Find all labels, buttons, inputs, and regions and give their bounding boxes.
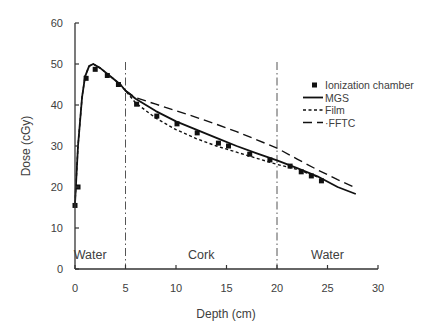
region-label: Water bbox=[74, 248, 107, 262]
fftc-line bbox=[126, 91, 356, 188]
ionization-chamber-point bbox=[93, 67, 98, 72]
y-axis-title: Dose (cGy) bbox=[19, 116, 33, 177]
legend-label: Ionization chamber bbox=[325, 79, 414, 91]
dose-depth-chart: 0102030405060051015202530 Depth (cm) Dos… bbox=[0, 0, 431, 333]
legend-label: ·FFTC bbox=[325, 117, 356, 129]
plot-area bbox=[73, 62, 356, 269]
x-tick-label: 15 bbox=[220, 282, 232, 294]
region-label: Cork bbox=[188, 248, 215, 262]
x-axis-title: Depth (cm) bbox=[196, 307, 255, 321]
y-tick-label: 50 bbox=[51, 58, 63, 70]
x-tick-label: 10 bbox=[170, 282, 182, 294]
legend: Ionization chamberMGSFilm·FFTC bbox=[303, 79, 414, 129]
region-label: Water bbox=[311, 248, 344, 262]
x-tick-label: 0 bbox=[72, 282, 78, 294]
region-labels: WaterCorkWater bbox=[74, 248, 344, 262]
legend-label: MGS bbox=[325, 92, 349, 104]
x-tick-label: 20 bbox=[271, 282, 283, 294]
y-tick-label: 10 bbox=[51, 222, 63, 234]
ionization-chamber-point bbox=[216, 141, 221, 146]
y-tick-label: 40 bbox=[51, 99, 63, 111]
legend-label: Film bbox=[325, 104, 345, 116]
y-tick-label: 20 bbox=[51, 181, 63, 193]
x-tick-label: 5 bbox=[122, 282, 128, 294]
y-tick-label: 30 bbox=[51, 140, 63, 152]
x-tick-label: 30 bbox=[372, 282, 384, 294]
y-tick-label: 60 bbox=[51, 17, 63, 29]
legend-marker-icon bbox=[312, 83, 317, 88]
x-tick-label: 25 bbox=[321, 282, 333, 294]
y-tick-label: 0 bbox=[57, 263, 63, 275]
